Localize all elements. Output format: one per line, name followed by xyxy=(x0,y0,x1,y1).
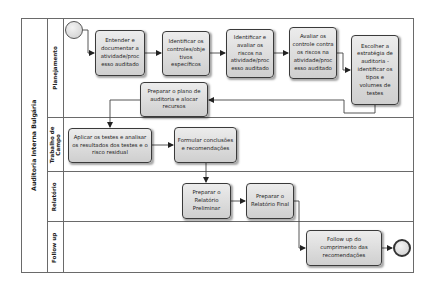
bpmn-diagram: Auditoria Interna Bulgária Planejamento … xyxy=(0,0,437,291)
task-escolher-estrategia[interactable]: Escolher a estratégia de auditoria - ide… xyxy=(351,35,399,105)
task-label: Entender e documentar a atividade/proc e… xyxy=(101,37,140,68)
task-avaliar-controles[interactable]: Avaliar os controle contra os riscos na … xyxy=(289,27,337,79)
task-label: Aplicar os testes e analisar os resultad… xyxy=(72,134,147,157)
task-relatorio-final[interactable]: Preparar o Relatório Final xyxy=(246,183,294,219)
task-label: Preparar o Relatório Final xyxy=(251,193,289,209)
task-label: Avaliar os controle contra os riscos na … xyxy=(292,33,333,72)
end-event-icon[interactable] xyxy=(393,239,411,257)
task-label: Formular conclusões e recomendações xyxy=(178,137,234,153)
task-aplicar-testes[interactable]: Aplicar os testes e analisar os resultad… xyxy=(68,128,152,163)
task-label: Preparar o plano de auditoria e alocar r… xyxy=(147,88,200,111)
task-identificar-controles[interactable]: Identificar os controles/obje tivos espe… xyxy=(162,31,210,76)
task-label: Escolher a estratégia de auditoria - ide… xyxy=(357,43,393,98)
task-entender-documentar[interactable]: Entender e documentar a atividade/proc e… xyxy=(95,30,145,76)
task-preparar-plano[interactable]: Preparar o plano de auditoria e alocar r… xyxy=(140,82,208,117)
task-label: Identificar os controles/obje tivos espe… xyxy=(167,38,205,69)
task-formular-conclusoes[interactable]: Formular conclusões e recomendações xyxy=(174,127,237,163)
flow-t6-t7 xyxy=(110,100,140,127)
flow-t10-t11 xyxy=(294,201,305,248)
flow-start-t1 xyxy=(83,30,94,53)
task-label: Follow up do cumprimento das recomendaçõ… xyxy=(320,236,367,259)
task-relatorio-preliminar[interactable]: Preparar o Relatório Preliminar xyxy=(182,183,231,219)
flow-t4-t5 xyxy=(337,53,350,70)
flow-t5-t6 xyxy=(209,100,375,113)
task-follow-up[interactable]: Follow up do cumprimento das recomendaçõ… xyxy=(306,230,382,266)
task-identificar-avaliar-riscos[interactable]: Identificar e avaliar os riscos na ativi… xyxy=(226,29,274,78)
task-label: Preparar o Relatório Preliminar xyxy=(192,189,220,212)
task-label: Identificar e avaliar os riscos na ativi… xyxy=(231,34,270,73)
start-event-icon[interactable] xyxy=(65,21,83,39)
